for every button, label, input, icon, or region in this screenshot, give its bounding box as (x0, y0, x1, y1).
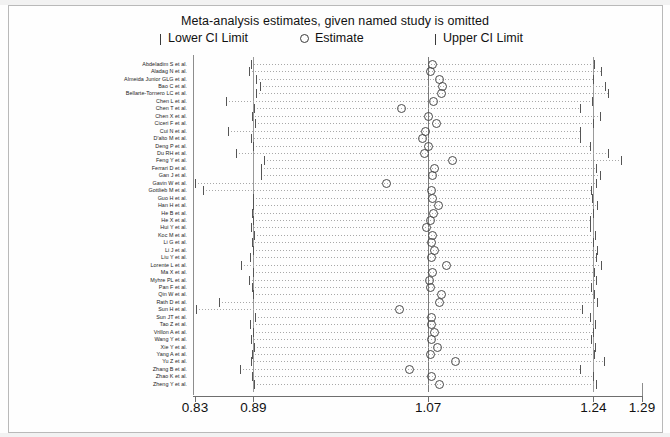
upper-ci-tick (595, 231, 596, 240)
ci-dotted-line (252, 213, 593, 214)
upper-ci-tick (601, 261, 602, 270)
x-axis-right-cap (642, 383, 643, 397)
lower-ci-tick (250, 320, 251, 329)
estimate-marker (426, 283, 435, 292)
forest-row (195, 71, 642, 72)
estimate-marker (433, 343, 442, 352)
forest-row (195, 198, 642, 199)
upper-ci-tick (601, 67, 602, 76)
upper-ci-tick (621, 156, 622, 165)
forest-plot-figure: Meta-analysis estimates, given named stu… (0, 0, 670, 437)
axis-tick-label: 1.24 (580, 400, 606, 415)
ci-dotted-line (256, 93, 608, 94)
upper-ci-tick (593, 238, 594, 247)
upper-ci-tick (595, 343, 596, 352)
lower-ci-tick (261, 171, 262, 180)
forest-row (195, 160, 642, 161)
ci-dotted-line (253, 198, 592, 199)
ci-dotted-line (254, 235, 595, 236)
study-label: Li J et al. (165, 246, 187, 252)
ci-dotted-line (253, 250, 597, 251)
estimate-marker (427, 372, 436, 381)
lower-ci-tick (250, 253, 251, 262)
lower-ci-tick (254, 343, 255, 352)
study-label: Han H et al. (158, 202, 187, 208)
study-label: Ferrari D et al. (152, 165, 187, 171)
forest-row (195, 153, 642, 154)
forest-row (195, 272, 642, 273)
upper-ci-tick (590, 313, 591, 322)
ci-dotted-line (256, 79, 593, 80)
ci-dotted-line (253, 294, 594, 295)
ci-dotted-line (228, 131, 580, 132)
ci-dotted-line (264, 160, 621, 161)
lower-ci-tick (253, 216, 254, 225)
ci-dotted-line (203, 190, 592, 191)
study-label: Aladag N et al. (151, 68, 187, 74)
ci-dotted-line (250, 257, 596, 258)
study-label: Bellarte-Tornero LC et al. (126, 90, 187, 96)
study-label: Chen X et al. (155, 112, 187, 118)
ci-dotted-line (254, 108, 580, 109)
upper-ci-tick (593, 209, 594, 218)
study-label: Almeida Junior GLG et al. (124, 75, 187, 81)
study-label: Lorente L et al. (150, 261, 187, 267)
study-label: Gavin W et al. (152, 179, 187, 185)
study-label-column: Abdeladim S et al.Aladag N et al.Almeida… (20, 57, 190, 392)
study-label: Yu Z et al. (162, 358, 187, 364)
lower-ci-tick (253, 201, 254, 210)
estimate-marker (451, 357, 460, 366)
lower-ci-tick (252, 112, 253, 121)
lower-ci-tick (228, 127, 229, 136)
lower-ci-tick (251, 223, 252, 232)
forest-row (195, 116, 642, 117)
upper-ci-tick (593, 75, 594, 84)
lower-ci-tick (253, 246, 254, 255)
lower-ci-tick (236, 149, 237, 158)
study-label: Vrillon A et al. (154, 328, 187, 334)
study-label: Hui Y et al. (160, 224, 187, 230)
forest-row (195, 123, 642, 124)
legend-item-estimate: Estimate (300, 31, 364, 45)
study-label: D'alto M et al. (153, 135, 187, 141)
estimate-marker (429, 97, 438, 106)
estimate-marker (382, 179, 391, 188)
ci-dotted-line (255, 123, 593, 124)
lower-ci-tick (255, 119, 256, 128)
ci-dotted-line (254, 347, 595, 348)
lower-ci-tick (251, 134, 252, 143)
upper-ci-tick (600, 171, 601, 180)
upper-ci-tick (593, 119, 594, 128)
ci-dotted-line (219, 302, 597, 303)
forest-row (195, 354, 642, 355)
axis-tick-label: 0.89 (240, 400, 266, 415)
forest-row (195, 257, 642, 258)
study-label: Rath D et al. (156, 299, 187, 305)
estimate-marker (426, 350, 435, 359)
study-label: Chen T et al. (156, 105, 187, 111)
forest-row (195, 369, 642, 370)
upper-ci-tick (590, 223, 591, 232)
scan-edge-bottom (0, 433, 670, 437)
ci-dotted-line (241, 265, 602, 266)
estimate-marker (437, 89, 446, 98)
forest-row (195, 86, 642, 87)
forest-row (195, 361, 642, 362)
study-label: Abdeladim S et al. (142, 60, 187, 66)
ci-dotted-line (250, 324, 595, 325)
axis-tick-label: 1.07 (415, 400, 441, 415)
lower-ci-tick (251, 335, 252, 344)
upper-ci-tick (593, 372, 594, 381)
forest-row (195, 175, 642, 176)
forest-row (195, 332, 642, 333)
lower-ci-tick (256, 89, 257, 98)
legend-item-upper-ci: Upper CI Limit (435, 31, 523, 45)
study-label: Gan J et al. (159, 172, 187, 178)
estimate-marker (397, 104, 406, 113)
forest-row (195, 101, 642, 102)
lower-ci-tick (264, 156, 265, 165)
estimate-marker (424, 112, 433, 121)
reference-line-1-24 (593, 57, 594, 392)
study-label: Li G et al. (163, 239, 187, 245)
study-label: Zhang B et al. (153, 366, 187, 372)
